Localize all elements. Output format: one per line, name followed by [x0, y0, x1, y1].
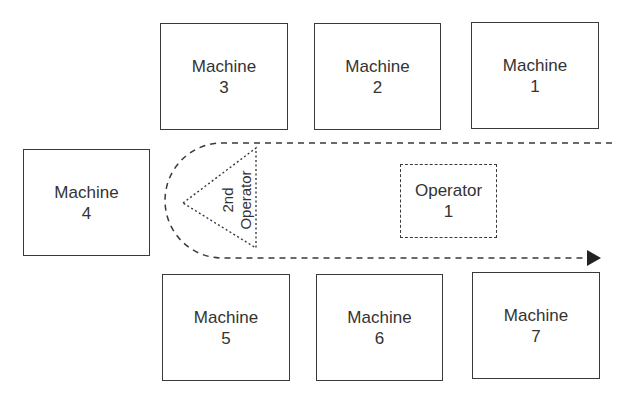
arrowhead-icon	[587, 250, 601, 266]
machine-label: Machine	[345, 56, 409, 77]
machine-number: 4	[82, 203, 91, 224]
second-operator-label: 2nd Operator	[219, 150, 259, 250]
machine-label: Machine	[194, 307, 258, 328]
operator-1-box: Operator 1	[400, 164, 497, 238]
machine-7-box: Machine 7	[472, 272, 600, 379]
operator-number: 1	[444, 201, 453, 222]
machine-6-box: Machine 6	[316, 274, 443, 381]
machine-label: Machine	[54, 182, 118, 203]
machine-number: 6	[375, 328, 384, 349]
machine-label: Machine	[192, 56, 256, 77]
second-operator-line2: Operator	[237, 150, 255, 250]
machine-1-box: Machine 1	[471, 22, 599, 129]
machine-2-box: Machine 2	[314, 23, 441, 130]
machine-number: 2	[373, 77, 382, 98]
machine-3-box: Machine 3	[160, 23, 288, 130]
machine-label: Machine	[347, 307, 411, 328]
machine-number: 3	[219, 77, 228, 98]
machine-label: Machine	[503, 55, 567, 76]
machine-number: 7	[531, 326, 540, 347]
machine-label: Machine	[504, 305, 568, 326]
machine-number: 5	[221, 328, 230, 349]
second-operator-line1: 2nd	[219, 150, 237, 250]
machine-4-box: Machine 4	[23, 149, 150, 256]
machine-number: 1	[530, 76, 539, 97]
machine-5-box: Machine 5	[162, 274, 290, 381]
operator-label: Operator	[415, 180, 482, 201]
